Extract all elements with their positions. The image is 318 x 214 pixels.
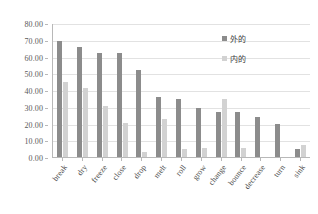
x-label-cell: melt <box>151 162 171 214</box>
x-tick-mark <box>241 158 242 161</box>
bar[interactable] <box>83 88 88 157</box>
x-label-cell: change <box>211 162 231 214</box>
y-tick-label: 30.00 <box>25 103 44 112</box>
x-tick-label: freeze <box>89 163 108 184</box>
bar-chart: 80.0070.0060.0050.0040.0030.0020.0010.00… <box>0 0 318 214</box>
legend-swatch-icon <box>222 36 227 41</box>
y-tick-label: 40.00 <box>25 87 44 96</box>
y-tick-label: 20.00 <box>25 120 44 129</box>
x-label-cell: break <box>52 162 72 214</box>
x-tick-label: sink <box>292 163 308 179</box>
x-label-cell: turn <box>270 162 290 214</box>
bar[interactable] <box>176 99 181 157</box>
y-tick-label: 80.00 <box>25 20 44 29</box>
x-tick-mark <box>260 158 261 161</box>
x-tick-label: grow <box>190 163 207 182</box>
bar-group <box>112 24 132 157</box>
bar-group <box>53 24 73 157</box>
bar[interactable] <box>182 149 187 157</box>
bar[interactable] <box>57 41 62 157</box>
x-axis-labels: breakdryfreezeclosedropmeltrollgrowchang… <box>52 162 310 214</box>
x-tick-label: drop <box>132 163 148 180</box>
y-tick-mark <box>45 74 48 75</box>
y-tick-label: 0.00 <box>29 154 43 163</box>
bar[interactable] <box>216 112 221 157</box>
x-tick-label: melt <box>152 163 168 180</box>
bar[interactable] <box>255 117 260 157</box>
bar[interactable] <box>275 124 280 157</box>
legend-item-inner[interactable]: 内的 <box>222 53 274 63</box>
bar[interactable] <box>235 112 240 157</box>
legend-item-label: 外的 <box>230 33 246 44</box>
bar-group <box>132 24 152 157</box>
bar[interactable] <box>156 97 161 157</box>
x-tick-mark <box>221 158 222 161</box>
x-label-cell: roll <box>171 162 191 214</box>
x-tick-mark <box>62 158 63 161</box>
y-tick-label: 10.00 <box>25 137 44 146</box>
x-label-cell: sink <box>290 162 310 214</box>
x-label-cell: dry <box>72 162 92 214</box>
x-tick-mark <box>121 158 122 161</box>
y-tick-mark <box>45 41 48 42</box>
bar[interactable] <box>103 106 108 157</box>
legend-item-outer[interactable]: 外的 <box>222 33 274 43</box>
y-tick-mark <box>45 125 48 126</box>
legend-item-label: 内的 <box>230 53 246 64</box>
bar-group <box>290 24 310 157</box>
y-tick-mark <box>45 108 48 109</box>
bar-group <box>73 24 93 157</box>
bar-group <box>191 24 211 157</box>
y-tick-mark <box>45 141 48 142</box>
y-axis: 80.0070.0060.0050.0040.0030.0020.0010.00… <box>0 24 48 158</box>
bar[interactable] <box>123 123 128 157</box>
bar[interactable] <box>241 148 246 157</box>
x-tick-mark <box>300 158 301 161</box>
bar-group <box>172 24 192 157</box>
bar[interactable] <box>77 47 82 157</box>
y-tick-label: 50.00 <box>25 70 44 79</box>
x-tick-label: roll <box>174 163 188 178</box>
x-tick-mark <box>82 158 83 161</box>
bar[interactable] <box>295 149 300 157</box>
legend-swatch-icon <box>222 56 227 61</box>
bar[interactable] <box>136 70 141 157</box>
x-tick-mark <box>141 158 142 161</box>
x-tick-mark <box>201 158 202 161</box>
x-tick-mark <box>161 158 162 161</box>
bar[interactable] <box>202 148 207 157</box>
x-label-cell: grow <box>191 162 211 214</box>
x-tick-mark <box>280 158 281 161</box>
x-tick-label: turn <box>272 163 287 179</box>
y-tick-mark <box>45 91 48 92</box>
x-label-cell: close <box>112 162 132 214</box>
bar[interactable] <box>301 145 306 157</box>
x-label-cell: decrease <box>250 162 270 214</box>
y-tick-mark <box>45 158 48 159</box>
x-tick-label: close <box>111 163 129 182</box>
bar[interactable] <box>63 82 68 157</box>
x-tick-mark <box>102 158 103 161</box>
x-label-cell: freeze <box>92 162 112 214</box>
x-label-cell: drop <box>131 162 151 214</box>
y-tick-mark <box>45 24 48 25</box>
bar-group <box>93 24 113 157</box>
x-tick-mark <box>181 158 182 161</box>
bar[interactable] <box>117 53 122 157</box>
chart-legend: 外的 内的 <box>222 33 274 73</box>
y-tick-mark <box>45 58 48 59</box>
bar[interactable] <box>162 119 167 157</box>
x-tick-label: break <box>51 163 69 183</box>
bar[interactable] <box>196 108 201 157</box>
x-tick-label: dry <box>75 163 89 177</box>
y-tick-label: 70.00 <box>25 36 44 45</box>
bar[interactable] <box>222 99 227 157</box>
y-tick-label: 60.00 <box>25 53 44 62</box>
bar[interactable] <box>142 152 147 157</box>
bar-group <box>152 24 172 157</box>
bar[interactable] <box>97 53 102 157</box>
